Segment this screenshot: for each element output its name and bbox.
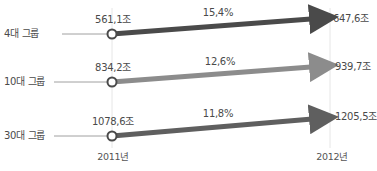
x-tick-2012: 2012년 [316, 151, 348, 163]
value-2012-30-groups: 1205,5조 [335, 111, 377, 123]
row-label-10-groups: 10대 그룹 [4, 76, 45, 88]
growth-10-groups: 12,6% [205, 56, 235, 68]
start-marker [108, 30, 117, 39]
growth-arrow [112, 18, 324, 34]
row-label-4-groups: 4대 그룹 [4, 28, 39, 40]
growth-4-groups: 15,4% [203, 7, 233, 19]
value-2012-4-groups: 647,6조 [333, 13, 369, 25]
value-2012-10-groups: 939,7조 [335, 61, 371, 73]
value-2011-30-groups: 1078,6조 [92, 116, 134, 128]
growth-arrow [112, 118, 324, 136]
value-2011-4-groups: 561,1조 [95, 14, 131, 26]
growth-arrow [112, 66, 324, 82]
row-label-30-groups: 30대 그룹 [4, 130, 45, 142]
start-marker [108, 78, 117, 87]
x-tick-2011: 2011년 [97, 151, 129, 163]
growth-30-groups: 11,8% [203, 108, 233, 120]
value-2011-10-groups: 834,2조 [95, 62, 131, 74]
start-marker [108, 132, 117, 141]
